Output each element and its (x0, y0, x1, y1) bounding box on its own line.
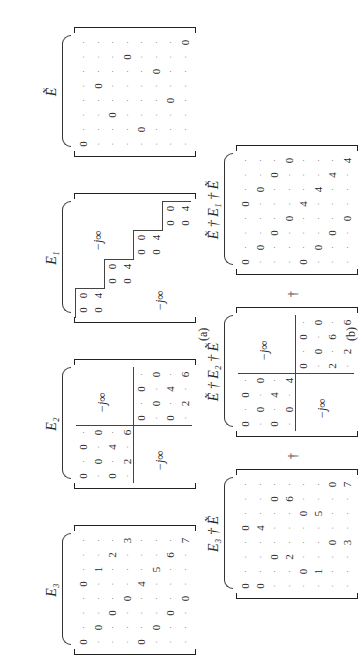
matrix-cell: · (120, 469, 134, 483)
matrix-cell: 7 (178, 534, 192, 548)
matrix-cell: 0 (149, 65, 163, 79)
matrix-cell: · (91, 65, 105, 79)
matrix-cell: · (91, 548, 105, 562)
matrix-cell: 0 (105, 469, 119, 483)
matrix-cell: · (325, 492, 339, 506)
matrix-cell: · (76, 79, 90, 93)
matrix-cell: · (311, 212, 325, 226)
matrix-cell: 0 (76, 289, 90, 303)
matrix-cell: · (120, 94, 134, 108)
matrix-cell: · (105, 79, 119, 93)
matrix-cell: · (296, 521, 310, 535)
matrix-cell: · (340, 550, 354, 564)
matrix-cell: 0 (238, 521, 252, 535)
matrix-cell: 4 (105, 440, 119, 454)
matrix-cell: 0 (76, 303, 90, 317)
matrix-cell: 0 (91, 303, 105, 317)
matrix-cell: · (120, 577, 134, 591)
matrix-cell: · (105, 635, 119, 649)
brace (224, 477, 233, 589)
neg-infinity-block: −j∞ (91, 231, 106, 251)
matrix-cell: · (76, 548, 90, 562)
matrix-cell: 0 (76, 137, 90, 151)
matrix-cell: · (105, 36, 119, 50)
matrix-cell: 4 (325, 168, 339, 182)
matrix-E1-label: E₁ (44, 193, 60, 323)
matrix-cell: · (149, 108, 163, 122)
bracket-right (74, 27, 196, 33)
matrix-cell: 2 (120, 455, 134, 469)
bracket-left (236, 593, 358, 599)
matrix-cell: · (253, 536, 267, 550)
matrix-cell: · (238, 212, 252, 226)
matrix-cell: 2 (178, 397, 192, 411)
matrix-cell: · (178, 94, 192, 108)
matrix-cell: 0 (178, 36, 192, 50)
matrix-cell: · (76, 65, 90, 79)
matrix-cell: 0 (325, 478, 339, 492)
matrix-cell: · (325, 565, 339, 579)
matrix-cell: 0 (105, 274, 119, 288)
matrix-cell: · (134, 79, 148, 93)
matrix-cell: · (91, 123, 105, 137)
matrix-cell: 0 (76, 440, 90, 454)
matrix-cell: 0 (149, 397, 163, 411)
matrix-cell: · (134, 621, 148, 635)
matrix-Etilde-label: Ẽ (44, 27, 60, 157)
matrix-cell: 6 (120, 426, 134, 440)
matrix-cell: · (149, 382, 163, 396)
bracket-right (74, 359, 196, 365)
matrix-cell: · (267, 212, 281, 226)
matrix-cell: 2 (282, 550, 296, 564)
matrix-cell: · (178, 563, 192, 577)
matrix-cell: · (253, 478, 267, 492)
matrix-cell: 6 (178, 368, 192, 382)
matrix-cell: 0 (163, 411, 177, 425)
matrix-cell: · (134, 94, 148, 108)
matrix-Etilde: 0···········0·····0···········0··0······… (74, 27, 196, 157)
matrix-E3-figure: E₃ 0···0····0···1····0···2····0···30···4… (48, 525, 170, 655)
matrix-cell: · (267, 507, 281, 521)
matrix-cell: · (340, 241, 354, 255)
matrix-cell: · (178, 108, 192, 122)
matrix-cell: 0 (134, 245, 148, 259)
matrix-cell: 4 (282, 374, 296, 388)
matrix-cell: 0 (282, 154, 296, 168)
matrix-cell: · (120, 606, 134, 620)
matrix-cell: 4 (91, 289, 105, 303)
matrix-cell: 0 (120, 592, 134, 606)
partition-line (104, 259, 133, 260)
matrix-cell: · (178, 382, 192, 396)
matrix-cell: 4 (340, 154, 354, 168)
matrix-cell: · (178, 411, 192, 425)
matrix-cell: · (149, 606, 163, 620)
matrix-cell: · (105, 592, 119, 606)
matrix-cell: 7 (340, 478, 354, 492)
matrix-cell: · (120, 563, 134, 577)
matrix-cell: · (120, 108, 134, 122)
matrix-cell: · (134, 592, 148, 606)
matrix-cell: · (76, 563, 90, 577)
matrix-cell: · (76, 592, 90, 606)
matrix-cell: 0 (238, 417, 252, 431)
matrix-E3dagEt-figure: E₃ † Ẽ 0···0···0···4·····0···0···2···6··… (210, 469, 332, 599)
matrix-cell: 4 (120, 260, 134, 274)
matrix-cell: · (76, 426, 90, 440)
matrix-cell: 0 (76, 469, 90, 483)
matrix-EtdagE1dagEt: 0···0····0···0····0···0····0···00···4···… (236, 145, 358, 275)
matrix-cell: · (311, 550, 325, 564)
matrix-cell: 4 (178, 202, 192, 216)
matrix-cell: · (120, 621, 134, 635)
matrix-cell: · (178, 606, 192, 620)
matrix-cell: · (267, 183, 281, 197)
matrix-cell: · (311, 536, 325, 550)
matrix-cell: · (238, 226, 252, 240)
matrix-cell: · (105, 563, 119, 577)
matrix-cell: · (238, 536, 252, 550)
bracket-right (74, 193, 196, 199)
caption-b: (b) (344, 327, 359, 341)
matrix-EtdagE2dagEt-label: Ẽ † E₂ † Ẽ (206, 307, 222, 437)
matrix-cell: · (296, 492, 310, 506)
matrix-cell: 0 (325, 226, 339, 240)
matrix-cell: · (267, 197, 281, 211)
